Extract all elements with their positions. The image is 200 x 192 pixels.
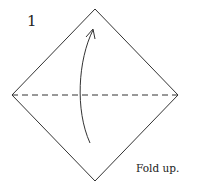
arrowhead-icon xyxy=(86,29,95,39)
step-number: 1 xyxy=(27,12,37,30)
curved-arrow-icon xyxy=(80,30,93,143)
instruction-caption: Fold up. xyxy=(136,162,179,174)
